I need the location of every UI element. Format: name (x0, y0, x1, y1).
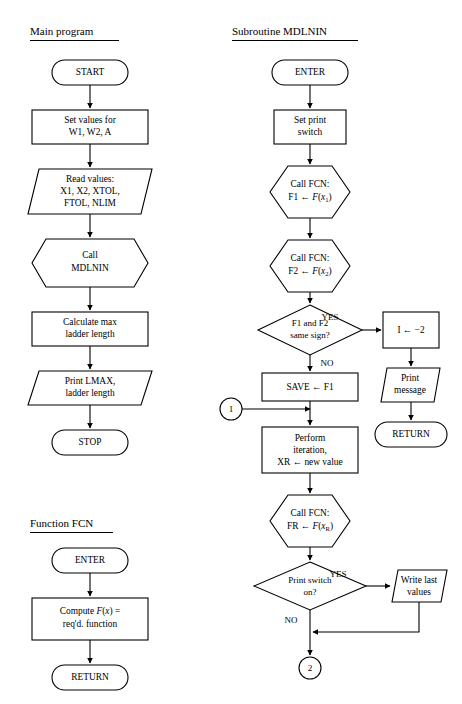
node-fcn-compute-line2: req'd. function (63, 619, 118, 629)
node-sub-return: RETURN (375, 422, 447, 447)
node-sub-enter: ENTER (272, 60, 348, 85)
node-print-message-line1: Print (401, 373, 420, 383)
node-read-values-line1: Read values: (66, 174, 114, 184)
node-call-fcn-1-line2: F1 ← F(x1) (288, 192, 331, 203)
node-write-last-values: Write last values (392, 570, 447, 602)
node-set-values-line2: W1, W2, A (69, 127, 112, 137)
node-stop-label: STOP (79, 437, 102, 447)
node-perform-iteration: Perform iteration, XR ← new value (262, 427, 358, 473)
node-calculate-max: Calculate max ladder length (32, 312, 148, 346)
node-call-fcn-2: Call FCN: F2 ← F(x2) (270, 240, 350, 292)
node-read-values: Read values: X1, X2, XTOL, FTOL, NLIM (28, 169, 152, 214)
node-set-i-label: I ← −2 (397, 325, 424, 335)
node-perform-iteration-line2: iteration, (293, 445, 327, 455)
node-start: START (52, 60, 128, 85)
main-program-title: Main program (30, 25, 94, 37)
node-calculate-max-line1: Calculate max (63, 317, 117, 327)
node-read-values-line2: X1, X2, XTOL, (60, 186, 119, 196)
node-fcn-compute: Compute F(x) = req'd. function (32, 598, 148, 640)
node-call-mdlnin-line1: Call (82, 250, 98, 260)
branch-label-print-switch-no: NO (285, 615, 298, 625)
node-set-values-line1: Set values for (64, 115, 116, 125)
node-write-last-values-line1: Write last (401, 575, 438, 585)
node-fcn-compute-line1: Compute F(x) = (60, 606, 121, 617)
node-fcn-enter-label: ENTER (75, 555, 106, 565)
node-fcn-return: RETURN (52, 665, 128, 690)
node-call-fcn-2-line2: F2 ← F(x2) (288, 266, 331, 277)
node-calculate-max-line2: ladder length (65, 329, 115, 339)
node-call-mdlnin: Call MDLNIN (32, 239, 148, 287)
node-sub-return-label: RETURN (392, 429, 430, 439)
node-call-fcn-2-line1: Call FCN: (291, 253, 330, 263)
node-fcn-return-label: RETURN (71, 672, 109, 682)
node-connector-1-label: 1 (229, 404, 234, 414)
node-call-mdlnin-line2: MDLNIN (71, 263, 109, 273)
node-perform-iteration-line3: XR ← new value (277, 457, 342, 467)
node-save-f1: SAVE ← F1 (262, 373, 358, 401)
node-set-values: Set values for W1, W2, A (32, 110, 148, 144)
node-print-lmax-line2: ladder length (65, 388, 115, 398)
node-call-fcn-r-line1: Call FCN: (291, 508, 330, 518)
node-call-fcn-r: Call FCN: FR ← F(xR) (270, 495, 350, 547)
node-sub-enter-label: ENTER (295, 67, 326, 77)
branch-label-same-sign-yes: YES (321, 312, 338, 322)
node-read-values-line3: FTOL, NLIM (64, 198, 117, 208)
flowchart-figure: Main program START Set values for W1, W2… (0, 0, 462, 704)
node-save-f1-label: SAVE ← F1 (286, 382, 334, 392)
node-perform-iteration-line1: Perform (295, 433, 326, 443)
node-set-i: I ← −2 (383, 312, 439, 348)
node-print-message-line2: message (394, 385, 426, 395)
node-connector-2: 2 (299, 657, 321, 679)
subroutine-mdlnin-title: Subroutine MDLNIN (232, 25, 327, 37)
node-print-lmax-line1: Print LMAX, (65, 376, 116, 386)
node-start-label: START (76, 67, 105, 77)
function-fcn-title: Function FCN (30, 517, 93, 529)
node-print-lmax: Print LMAX, ladder length (28, 371, 152, 405)
node-write-last-values-line2: values (407, 587, 431, 597)
node-fcn-enter: ENTER (52, 548, 128, 573)
node-connector-1: 1 (220, 398, 242, 420)
node-call-fcn-1-line1: Call FCN: (291, 179, 330, 189)
node-stop: STOP (52, 430, 128, 455)
branch-label-print-switch-yes: YES (329, 569, 346, 579)
node-same-sign-line2: same sign? (290, 330, 330, 340)
branch-label-same-sign-no: NO (321, 358, 334, 368)
node-set-print-switch-line2: switch (298, 127, 323, 137)
node-set-print-switch: Set print switch (274, 110, 346, 144)
node-print-switch-line2: on? (304, 587, 317, 597)
node-set-print-switch-line1: Set print (294, 115, 326, 125)
node-print-switch-line1: Print switch (288, 575, 332, 585)
node-call-fcn-1: Call FCN: F1 ← F(x1) (270, 166, 350, 218)
node-print-message: Print message (381, 368, 440, 402)
node-connector-2-label: 2 (308, 663, 313, 673)
